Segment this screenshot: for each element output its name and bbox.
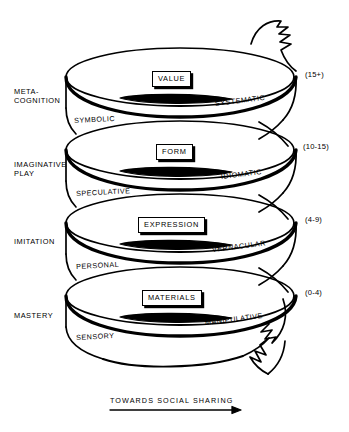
stage-label-imaginative-play-line2: PLAY <box>14 169 34 178</box>
social-sharing-arrow <box>110 407 241 414</box>
age-label-10-15: (10-15) <box>303 142 329 151</box>
spiral-development-diagram: META- COGNITION IMAGINATIVE PLAY IMITATI… <box>0 0 349 432</box>
age-label-0-4: (0-4) <box>305 288 322 297</box>
boxed-label-form: FORM <box>156 144 193 160</box>
stage-label-mastery: MASTERY <box>14 311 53 320</box>
boxed-label-value: VALUE <box>152 71 191 87</box>
stage-label-meta-cognition-line1: META- <box>14 87 39 96</box>
coil2-inner-lens <box>120 167 232 176</box>
stage-label-meta-cognition: META- COGNITION <box>14 87 60 106</box>
boxed-label-materials: MATERIALS <box>142 290 202 306</box>
stage-label-meta-cognition-line2: COGNITION <box>14 96 60 105</box>
coil2-left-connector <box>66 181 76 207</box>
age-label-4-9: (4-9) <box>305 215 322 224</box>
stage-label-imitation: IMITATION <box>14 237 55 246</box>
age-label-15-plus: (15+) <box>305 70 324 79</box>
stage-label-imaginative-play: IMAGINATIVE PLAY <box>14 160 67 179</box>
ribbon-top-torn-end <box>251 21 296 71</box>
coil4-bottom-sweep <box>103 356 243 367</box>
caption-towards-social-sharing: TOWARDS SOCIAL SHARING <box>110 396 233 405</box>
coil3-left-connector <box>66 254 76 280</box>
spiral-ribbon-artwork <box>0 0 349 432</box>
boxed-label-expression: EXPRESSION <box>138 217 205 233</box>
stage-label-imaginative-play-line1: IMAGINATIVE <box>14 160 67 169</box>
